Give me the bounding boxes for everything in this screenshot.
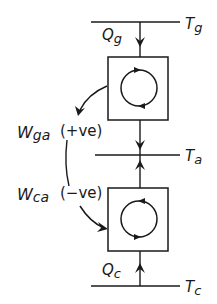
cycle-arrow-top-icon [134, 67, 141, 73]
reservoir-tc: Tc [91, 278, 201, 298]
heat-flow-qg-label: Qg [102, 26, 122, 46]
lower-engine [108, 188, 168, 251]
work-wga: Wga (+ve) [17, 86, 107, 143]
reservoir-tg-label: Tg [185, 15, 202, 35]
cycle-arrow-bottom-icon [138, 103, 145, 109]
cycle-arrow-top-icon [138, 198, 145, 204]
work-wga-label: Wga [17, 123, 50, 143]
work-wga-sign: (+ve) [60, 122, 102, 140]
heat-flow-qc: Qc [102, 251, 145, 286]
heat-flow-qc-label: Qc [102, 261, 121, 281]
work-wca-sign: (−ve) [60, 184, 102, 202]
work-wga-arrow-line [80, 86, 107, 110]
cycle-clockwise-icon [121, 70, 157, 106]
lower-engine-box [108, 188, 168, 251]
work-wca-label: Wca [17, 185, 49, 205]
arrow-right-icon [97, 222, 108, 232]
reservoir-ta-label: Ta [185, 147, 202, 167]
upper-engine [108, 57, 168, 120]
arrow-down-left-icon [75, 106, 85, 116]
diagram-canvas: Tg Qg Wga (+ve) Ta Wca (−ve) [0, 0, 217, 304]
cycle-counterclockwise-icon [121, 201, 157, 237]
heat-flow-qg: Qg [102, 22, 145, 57]
work-connector-curve [66, 140, 69, 186]
upper-engine-box [108, 57, 168, 120]
work-wca: Wca (−ve) [17, 184, 108, 232]
cycle-arrow-bottom-icon [134, 234, 141, 240]
reservoir-ta: Ta [95, 120, 202, 188]
reservoir-tc-label: Tc [185, 278, 201, 298]
